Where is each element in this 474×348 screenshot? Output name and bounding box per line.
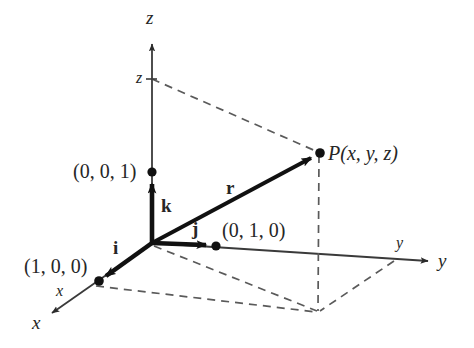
dashed-origin-to-xy-projection xyxy=(154,246,317,311)
basis-vector-j-label: j xyxy=(192,219,198,238)
point-p-label: P(x, y, z) xyxy=(328,143,398,163)
dot-point-p xyxy=(315,148,325,158)
dashed-x-tick-to-xy-projection xyxy=(96,286,316,312)
dot-unit-point-x xyxy=(94,276,104,286)
dashed-y-tick-to-xy-projection xyxy=(320,261,394,311)
x-tick-label: x xyxy=(56,283,63,299)
z-axis-label: z xyxy=(146,8,153,27)
unit-point-y-label: (0, 1, 0) xyxy=(222,220,285,240)
vector-diagram-figure: z z (0, 0, 1) k j i r (0, 1, 0) (1, 0, 0… xyxy=(0,0,474,348)
vector-j-arrow xyxy=(152,243,206,245)
unit-point-z-label: (0, 0, 1) xyxy=(73,161,136,181)
z-tick-label: z xyxy=(136,70,142,86)
vector-diagram-canvas xyxy=(0,0,474,348)
basis-vector-i-label: i xyxy=(113,238,118,257)
vector-arrows xyxy=(106,158,311,276)
dot-unit-point-z xyxy=(147,167,156,176)
vector-r-label: r xyxy=(226,178,234,197)
dashed-z-to-p xyxy=(152,79,318,152)
x-axis-label: x xyxy=(32,313,40,332)
basis-vector-k-label: k xyxy=(161,196,172,215)
dot-unit-point-y xyxy=(211,241,220,250)
y-axis-label: y xyxy=(438,251,446,270)
y-tick-label: y xyxy=(396,235,403,251)
unit-point-x-label: (1, 0, 0) xyxy=(24,256,87,276)
dashed-p-to-xy-projection xyxy=(318,155,319,311)
